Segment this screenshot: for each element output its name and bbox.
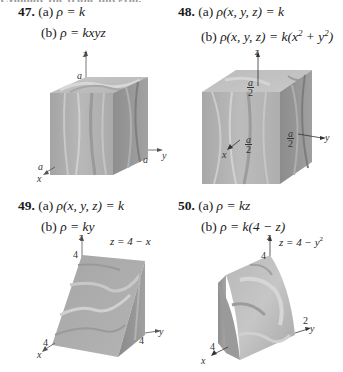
- y-axis-label: y: [310, 324, 314, 334]
- part-label: (a): [198, 198, 213, 213]
- part-label: (b): [41, 25, 57, 40]
- x-tick-label: a: [38, 162, 43, 172]
- y-axis-label: y: [325, 133, 329, 143]
- x-tick-label: 4: [210, 342, 215, 352]
- density-expression: ρ = kxyz: [60, 25, 106, 40]
- x-axis-label: x: [222, 150, 226, 160]
- part-label: (b): [201, 29, 217, 44]
- density-expression: ρ = ky: [60, 219, 94, 234]
- y-tick-label: 2: [303, 316, 308, 326]
- density-expression: ρ(x, y, z) = k: [57, 198, 124, 213]
- surface-equation-label: z = 4 − x: [108, 235, 153, 247]
- problem-number: 47.: [18, 4, 35, 19]
- density-expression: ρ = kz: [217, 198, 251, 213]
- y-tick-label: a2: [287, 129, 294, 148]
- z-tick-label: 4: [261, 251, 266, 261]
- x-axis-label: x: [37, 174, 41, 184]
- z-tick-label: a: [77, 71, 82, 81]
- part-label: (a): [38, 198, 53, 213]
- surface-equation-label: z = 4 − y2: [277, 235, 325, 248]
- x-tick-label: a2: [245, 135, 252, 154]
- problem-number: 50.: [178, 198, 195, 213]
- problem-50-part-a: 50. (a) ρ = kz: [178, 197, 250, 214]
- density-expression: ρ(x, y, z) = k: [217, 4, 284, 19]
- figure-49-wedge: z 4 y 4 x 4 z = 4 − x: [0, 235, 170, 372]
- density-expression: ρ = k: [57, 4, 85, 19]
- part-label: (a): [38, 4, 53, 19]
- part-label: (b): [41, 219, 57, 234]
- x-axis-label: x: [37, 350, 41, 360]
- problem-49-part-a: 49. (a) ρ(x, y, z) = k: [18, 197, 124, 214]
- problem-49-part-b: (b) ρ = ky: [41, 218, 94, 235]
- y-tick-label: 4: [139, 336, 144, 346]
- y-axis-label: y: [162, 151, 166, 161]
- x-axis-label: x: [201, 356, 205, 366]
- z-axis-label: z: [255, 47, 259, 57]
- problem-47-part-b: (b) ρ = kxyz: [41, 24, 106, 41]
- problem-number: 48.: [178, 4, 195, 19]
- figure-47-cube: z a y a x a: [0, 50, 170, 195]
- z-tick-label: a2: [247, 78, 254, 97]
- y-tick-label: a: [143, 155, 148, 165]
- z-axis-label: z: [83, 49, 87, 59]
- z-axis-label: z: [267, 232, 271, 242]
- density-expression: ρ(x, y, z) = k(x2 + y2): [220, 29, 333, 44]
- figure-48-cube: z a2 y a2 x a2: [170, 50, 343, 195]
- figure-50-parabolic-solid: z 4 y 2 x 4 z = 4 − y2: [170, 235, 343, 372]
- problem-48-part-b: (b) ρ(x, y, z) = k(x2 + y2): [201, 24, 333, 45]
- x-tick-label: 4: [43, 338, 48, 348]
- z-tick-label: 4: [73, 250, 78, 260]
- problem-number: 49.: [18, 198, 35, 213]
- density-expression: ρ = k(4 − z): [220, 219, 285, 234]
- problem-47-part-a: 47. (a) ρ = k: [18, 3, 85, 20]
- z-axis-label: z: [79, 232, 83, 242]
- part-label: (b): [201, 219, 217, 234]
- cut-off-instructions: Evaluate the triple integral.: [0, 0, 200, 2]
- y-axis-label: y: [159, 327, 163, 337]
- problem-50-part-b: (b) ρ = k(4 − z): [201, 218, 285, 235]
- part-label: (a): [198, 4, 213, 19]
- problem-48-part-a: 48. (a) ρ(x, y, z) = k: [178, 3, 284, 20]
